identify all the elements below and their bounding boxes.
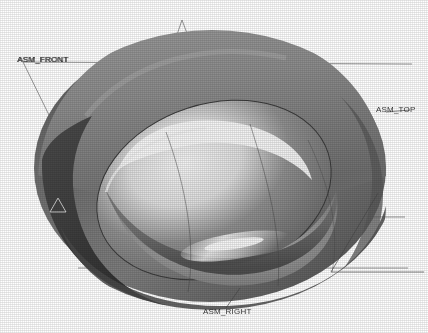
datum-label-asm-front-overlap: ASM_FRONT: [18, 55, 69, 64]
datum-label-asm-front[interactable]: ASM_FRONT ASM_FRONT: [17, 55, 87, 67]
datum-label-asm-right-text: ASM_RIGHT: [203, 307, 251, 316]
datum-label-asm-top[interactable]: ASM_TOP: [376, 105, 416, 114]
tire-solid: [34, 26, 386, 321]
model-render: [0, 0, 428, 333]
datum-label-asm-right[interactable]: ASM_RIGHT: [203, 307, 251, 316]
datum-label-asm-top-text: ASM_TOP: [376, 105, 416, 114]
cad-viewport[interactable]: ASM_FRONT ASM_FRONT ASM_TOP ASM_RIGHT: [0, 0, 428, 333]
